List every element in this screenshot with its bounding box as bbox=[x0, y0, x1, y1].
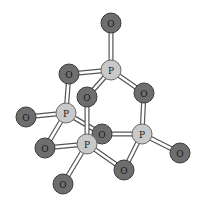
bonds-layer bbox=[26, 23, 180, 184]
atom-label: O bbox=[83, 93, 90, 103]
atom-label: O bbox=[120, 166, 127, 176]
atom-label: O bbox=[107, 19, 114, 29]
atom-label: O bbox=[59, 180, 66, 190]
oxygen-atom-O7: O bbox=[170, 143, 190, 163]
atom-label: P bbox=[63, 109, 69, 119]
oxygen-atom-O1: O bbox=[101, 13, 121, 33]
atom-label: P bbox=[139, 130, 145, 140]
atom-label: O bbox=[98, 130, 105, 140]
atom-label: O bbox=[65, 70, 72, 80]
oxygen-atom-O10: O bbox=[53, 174, 73, 194]
phosphorus-atom-P1: P bbox=[101, 60, 121, 80]
oxygen-atom-O4: O bbox=[77, 87, 97, 107]
atom-label: O bbox=[41, 144, 48, 154]
atom-label: P bbox=[108, 66, 114, 76]
atom-label: O bbox=[176, 149, 183, 159]
oxygen-atom-O3: O bbox=[134, 83, 154, 103]
atom-label: P bbox=[84, 140, 90, 150]
oxygen-atom-O2: O bbox=[59, 64, 79, 84]
atom-label: O bbox=[140, 89, 147, 99]
oxygen-atom-O9: O bbox=[114, 160, 134, 180]
phosphorus-atom-P3: P bbox=[132, 124, 152, 144]
oxygen-atom-O8: O bbox=[35, 138, 55, 158]
oxygen-atom-O5: O bbox=[16, 107, 36, 127]
atoms-layer: OPOOOPOOPOOPOO bbox=[16, 13, 190, 194]
atom-label: O bbox=[22, 113, 29, 123]
phosphorus-atom-P2: P bbox=[56, 103, 76, 123]
molecule-diagram: OPOOOPOOPOOPOO bbox=[0, 0, 202, 204]
phosphorus-atom-P4: P bbox=[77, 134, 97, 154]
